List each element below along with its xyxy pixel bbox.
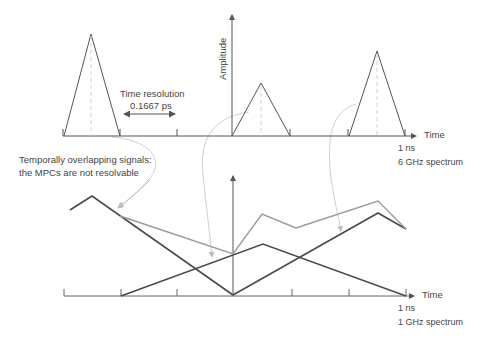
broad-pulse-2	[121, 244, 406, 296]
lower-time-label: Time	[422, 290, 443, 300]
upper-panel	[63, 15, 416, 136]
upper-spectrum-label: 6 GHz spectrum	[398, 158, 463, 167]
annotation-line-2: the MPCs are not resolvable	[19, 168, 139, 178]
mpc-mapping-arrows	[112, 104, 356, 257]
pulse-1	[64, 34, 120, 136]
amplitude-axis-label: Amplitude	[218, 38, 228, 80]
upper-duration-label: 1 ns	[398, 144, 415, 153]
lower-ticks	[64, 289, 406, 296]
broad-pulse-3	[233, 213, 406, 295]
annotation-line-1: Temporally overlapping signals:	[19, 155, 152, 165]
lower-panel	[64, 176, 414, 296]
time-resolution-value: 0.1667 ps	[130, 101, 172, 111]
curve-arrow-2	[202, 112, 249, 257]
time-resolution-label: Time resolution	[120, 89, 185, 99]
lower-duration-label: 1 ns	[398, 304, 415, 313]
lower-spectrum-label: 1 GHz spectrum	[398, 318, 463, 327]
upper-time-label: Time	[424, 130, 445, 140]
